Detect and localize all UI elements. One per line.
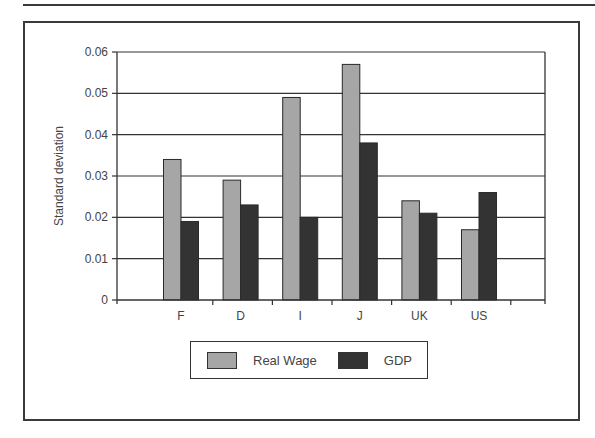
x-tick-label: D bbox=[236, 309, 245, 323]
y-tick-labels: 00.010.020.030.040.050.06 bbox=[85, 45, 109, 307]
x-tick-label: I bbox=[299, 309, 302, 323]
y-axis-label: Standard deviation bbox=[52, 126, 66, 226]
bar-gdp-i bbox=[300, 217, 318, 300]
legend-swatch-gdp bbox=[338, 352, 368, 369]
bar-real-wage-i bbox=[283, 97, 301, 300]
x-tick-label: J bbox=[357, 309, 363, 323]
y-tick-label: 0.03 bbox=[85, 169, 109, 183]
x-tick-labels: FDIJUKUS bbox=[177, 309, 487, 323]
bars bbox=[164, 64, 497, 300]
y-tick-label: 0.06 bbox=[85, 45, 109, 59]
x-tick-label: UK bbox=[411, 309, 428, 323]
y-tick-label: 0.01 bbox=[85, 252, 109, 266]
legend-item-gdp: GDP bbox=[338, 352, 412, 369]
y-tick-label: 0.05 bbox=[85, 86, 109, 100]
x-tick-label: F bbox=[177, 309, 184, 323]
y-tick-label: 0 bbox=[101, 293, 108, 307]
y-tick-label: 0.04 bbox=[85, 128, 109, 142]
bar-real-wage-d bbox=[223, 180, 241, 300]
y-tick-label: 0.02 bbox=[85, 210, 109, 224]
legend-item-real-wage: Real Wage bbox=[207, 352, 317, 369]
bar-real-wage-uk bbox=[402, 201, 420, 300]
bar-gdp-us bbox=[479, 193, 497, 300]
x-tick-label: US bbox=[471, 309, 488, 323]
bar-gdp-uk bbox=[419, 213, 437, 300]
legend: Real Wage GDP bbox=[190, 341, 428, 379]
legend-label-gdp: GDP bbox=[384, 353, 412, 368]
bar-gdp-d bbox=[241, 205, 259, 300]
bar-gdp-j bbox=[360, 143, 378, 300]
bar-real-wage-f bbox=[164, 159, 182, 300]
legend-swatch-real-wage bbox=[207, 352, 237, 369]
legend-label-real-wage: Real Wage bbox=[253, 353, 317, 368]
bar-real-wage-j bbox=[342, 64, 360, 300]
bar-gdp-f bbox=[181, 221, 199, 300]
bar-real-wage-us bbox=[462, 230, 480, 300]
